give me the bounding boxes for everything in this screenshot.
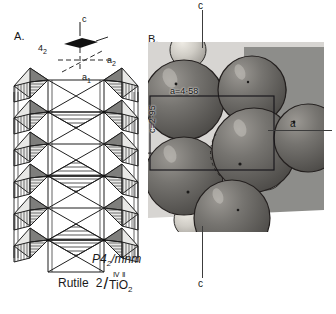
c-dimension-label: c=2·95: [147, 105, 157, 133]
panel-b-sphere-model: B.: [140, 0, 336, 300]
axis-line-a-right: [268, 130, 332, 131]
axis-label-c: c: [82, 14, 87, 24]
symmetry-label-4-2: 42: [38, 43, 47, 55]
axis-line-c-top: [202, 10, 203, 48]
axis-label-a-right: a: [290, 118, 296, 129]
axis-label-c-top: c: [198, 0, 203, 11]
formula-caption: Rutile 2 / ⅣⅡ TiO2: [58, 272, 132, 294]
formula-fraction: 2 / ⅣⅡ TiO2: [96, 272, 133, 294]
sphere-model-render: [148, 42, 324, 232]
axis-line-c-bottom: [202, 226, 203, 278]
sphere-model-photograph: a=4·58 c=2·95: [148, 42, 324, 232]
mineral-name: Rutile: [58, 276, 89, 290]
formula-denominator: TiO2: [109, 279, 132, 294]
rutile-structure-figure: A. c 42 a2 a1: [0, 0, 336, 314]
axis-label-c-bottom: c: [198, 278, 203, 289]
panel-a-octahedra-diagram: A. c 42 a2 a1: [0, 0, 150, 290]
space-group-label: P42/mnm: [92, 252, 141, 268]
a-dimension-label: a=4·58: [170, 86, 198, 96]
panel-a-label: A.: [14, 30, 25, 42]
